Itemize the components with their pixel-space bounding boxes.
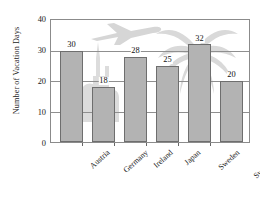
x-tick-label-switzerland: Switzerland bbox=[252, 148, 260, 180]
x-tick-label-austria: Austria bbox=[88, 148, 112, 170]
x-tick-label-sweden: Sweden bbox=[217, 148, 242, 172]
vacation-days-bar-chart: Number of Vacation Days 40 30 20 10 0 bbox=[0, 0, 260, 199]
x-axis-tick-labels: Austria Germany Ireland Japan Sweden Swi… bbox=[0, 0, 260, 199]
x-tick-label-ireland: Ireland bbox=[152, 148, 175, 170]
x-tick-label-japan: Japan bbox=[183, 148, 203, 167]
x-tick-label-germany: Germany bbox=[122, 148, 150, 175]
